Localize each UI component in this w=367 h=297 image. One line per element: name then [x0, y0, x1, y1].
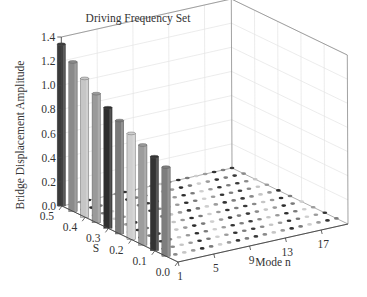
bar-highlight [86, 78, 88, 217]
floor-dot [192, 224, 197, 227]
floor-dot [172, 196, 177, 199]
floor-dot [261, 201, 266, 204]
floor-dot [215, 236, 220, 239]
floor-dot [233, 232, 238, 235]
floor-dot [270, 199, 275, 202]
floor-dot [302, 208, 307, 211]
floor-dot [210, 220, 215, 223]
floor-dot [245, 237, 250, 240]
floor-dot [275, 214, 280, 217]
z-tick-label: 1.2 [41, 55, 56, 67]
floor-dot [175, 204, 180, 207]
floor-dot [251, 228, 256, 231]
floor-dot [179, 244, 184, 247]
z-tick-label: 0.8 [41, 103, 56, 115]
floor-dot [200, 247, 205, 250]
floor-dot [231, 199, 236, 202]
s-axis-label: S [93, 242, 99, 254]
floor-dot [313, 214, 318, 217]
floor-dot [186, 234, 191, 237]
floor-dot [263, 208, 268, 211]
floor-dot [183, 226, 188, 229]
floor-dot [289, 227, 294, 230]
n-tick-label: 17 [317, 238, 329, 250]
floor-dot [218, 243, 223, 246]
floor-dot [281, 204, 286, 207]
bar-highlight [168, 167, 170, 256]
floor-dot [249, 195, 254, 198]
floor-dot [243, 205, 248, 208]
floor-dot [334, 217, 339, 220]
floor-dot [174, 228, 179, 231]
floor-dot [207, 213, 212, 216]
floor-dot [221, 169, 226, 172]
floor-dot [199, 190, 204, 193]
n-tick [178, 262, 179, 266]
floor-dot [264, 184, 269, 187]
floor-dot [234, 207, 239, 210]
s-tick-label: 0.5 [40, 210, 55, 222]
bar-highlight [98, 94, 100, 223]
floor-dot [240, 197, 245, 200]
s-tick-label: 0.0 [156, 266, 171, 278]
bar-highlight [156, 157, 158, 251]
bar-cap [92, 92, 100, 95]
s-tick [175, 262, 178, 266]
floor-dot [311, 206, 316, 209]
bar-cap [104, 106, 112, 109]
floor-dot [176, 179, 181, 182]
floor-dot [253, 235, 258, 238]
floor-dot [255, 186, 260, 189]
floor-dot [280, 229, 285, 232]
floor-dot [242, 230, 247, 233]
floor-dot [182, 251, 187, 254]
floor-dot [222, 201, 227, 204]
bar-highlight [144, 145, 146, 245]
s-tick [82, 217, 85, 221]
floor-dot [266, 216, 271, 219]
floor-dot [271, 231, 276, 234]
s-tick [105, 228, 108, 232]
z-axis-label: Bridge Displacement Amplitude [14, 61, 27, 210]
floor-dot [258, 193, 263, 196]
floor-dot [232, 174, 237, 177]
floor-dot [246, 212, 251, 215]
floor-dot [299, 200, 304, 203]
floor-dot [217, 186, 222, 189]
n-tick [321, 230, 322, 234]
floor-dot [298, 225, 303, 228]
z-tick-label: 0.2 [42, 176, 57, 188]
floor-dot [196, 182, 201, 185]
floor-dot [219, 218, 224, 221]
floor-dot [188, 242, 193, 245]
floor-dot [238, 190, 243, 193]
floor-dot [193, 200, 198, 203]
floor-dot [212, 228, 217, 231]
n-tick-label: 1 [177, 270, 183, 282]
n-tick-label: 9 [249, 254, 255, 266]
floor-dot [293, 210, 298, 213]
floor-dot [239, 222, 244, 225]
floor-dot [211, 196, 216, 199]
floor-dot [177, 236, 182, 239]
floor-dot [262, 233, 267, 236]
floor-dot [206, 238, 211, 241]
floor-dot [189, 217, 194, 220]
s-tick-label: 0.2 [109, 244, 124, 256]
bar-highlight [63, 44, 65, 206]
bar-highlight [121, 121, 123, 234]
floor-dot [284, 212, 289, 215]
n-axis-label: Mode n [255, 256, 291, 268]
s-tick-label: 0.1 [132, 255, 147, 267]
floor-dot [247, 188, 252, 191]
floor-dot [236, 239, 241, 242]
floor-dot [248, 220, 253, 223]
floor-dot [225, 209, 230, 212]
floor-dot [197, 240, 202, 243]
floor-dot [244, 180, 249, 183]
floor-dot [198, 215, 203, 218]
bar-highlight [133, 133, 135, 239]
floor-dot [214, 178, 219, 181]
floor-dot [241, 172, 246, 175]
floor-dot [305, 216, 310, 219]
